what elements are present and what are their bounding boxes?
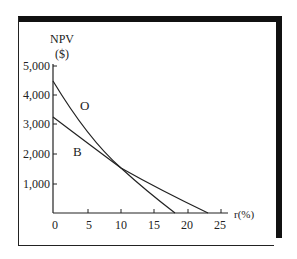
svg-text:25: 25 [214, 218, 226, 232]
x-axis-title: r(%) [234, 208, 254, 221]
svg-text:4,000: 4,000 [23, 88, 50, 102]
series-O-curve [53, 81, 175, 213]
svg-text:3,000: 3,000 [23, 117, 50, 131]
svg-text:15: 15 [148, 218, 160, 232]
svg-text:1,000: 1,000 [23, 177, 50, 191]
svg-text:10: 10 [115, 218, 127, 232]
svg-text:5,000: 5,000 [23, 59, 50, 73]
x-tick-labels: 0 5 10 15 20 25 [52, 218, 226, 232]
svg-text:0: 0 [52, 218, 58, 232]
series-B-label: B [73, 144, 82, 159]
series-B-curve [53, 117, 208, 213]
y-axis-title-line1: NPV [50, 32, 74, 46]
svg-text:20: 20 [181, 218, 193, 232]
svg-text:2,000: 2,000 [23, 147, 50, 161]
y-axis-title-line2: ($) [55, 47, 69, 61]
series-O-label: O [80, 98, 89, 113]
npv-chart: 5,000 4,000 3,000 2,000 1,000 0 5 10 15 … [0, 0, 297, 259]
svg-text:5: 5 [86, 218, 92, 232]
y-tick-labels: 5,000 4,000 3,000 2,000 1,000 [23, 59, 50, 191]
